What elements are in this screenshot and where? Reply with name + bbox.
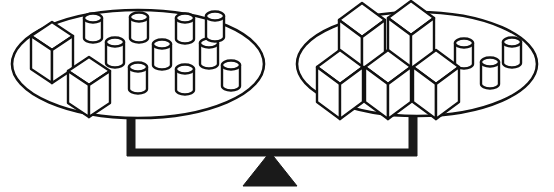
- right-pan-cylinder-cyl-r3: [503, 38, 521, 68]
- left-pan-cylinder-cyl-l10: [206, 12, 224, 42]
- left-pan-cylinder-cyl-l4: [106, 38, 124, 68]
- left-pan-cylinder-cyl-l9: [222, 61, 240, 91]
- left-pan-cylinder-cyl-l2: [130, 13, 148, 43]
- fulcrum-triangle: [243, 152, 297, 186]
- balance-scale-figure: Balance scale with two pans A line-drawi…: [0, 0, 554, 192]
- right-pan-group: [297, 1, 537, 119]
- left-pan-cylinder-cyl-l6: [200, 39, 218, 69]
- left-pan-cylinder-cyl-l1: [84, 14, 102, 43]
- left-pan-group: [12, 10, 264, 118]
- left-pan-cylinder-cyl-l3: [176, 14, 194, 44]
- right-pan-cylinder-cyl-r1: [455, 39, 473, 69]
- balance-scale-svg: [0, 0, 554, 192]
- left-pan-cylinder-cyl-l8: [176, 65, 194, 95]
- beam-frame: [127, 117, 417, 156]
- left-pan-cube-cube-l2: [68, 57, 110, 117]
- left-pan-cube-cube-l1: [31, 22, 73, 83]
- left-pan-cylinder-cyl-l5: [153, 40, 171, 70]
- right-pan-cylinder-cyl-r2: [481, 58, 499, 89]
- fulcrum-group: [243, 152, 297, 186]
- balance-beam-group: [127, 117, 417, 156]
- left-pan-cylinder-cyl-l7: [129, 63, 147, 94]
